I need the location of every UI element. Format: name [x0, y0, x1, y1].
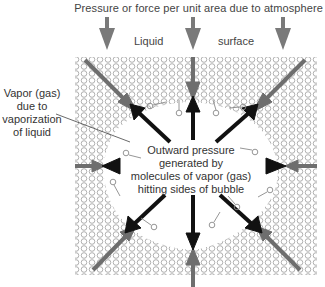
center-label-line: molecules of vapor (gas)	[112, 170, 270, 183]
vapor-label-line: of liquid	[0, 126, 64, 139]
atmosphere-arrows	[99, 17, 291, 50]
atmosphere-arrow-center	[185, 17, 201, 50]
atmosphere-arrow-right	[275, 17, 291, 50]
center-label-line: Outward pressure	[112, 144, 270, 157]
outward-pressure-label: Outward pressure generated by molecules …	[112, 144, 270, 196]
vapor-label-line: due to	[0, 100, 64, 113]
center-label-line: hitting sides of bubble	[112, 183, 270, 196]
vapor-label-line: Vapor (gas)	[0, 87, 64, 100]
vapor-label: Vapor (gas) due to vaporization of liqui…	[0, 87, 64, 139]
center-label-line: generated by	[112, 157, 270, 170]
atmosphere-arrow-left	[99, 17, 115, 50]
vapor-label-line: vaporization	[0, 113, 64, 126]
